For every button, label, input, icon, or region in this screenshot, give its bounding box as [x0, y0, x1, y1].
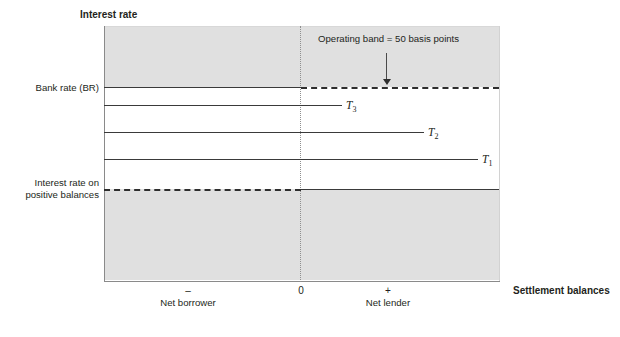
x-tick-label-net-borrower: Net borrower [148, 297, 228, 308]
down-arrow-icon-head [383, 79, 391, 85]
bank-rate-line-left-solid [104, 87, 301, 88]
x-tick-label-net-lender: Net lender [348, 297, 428, 308]
x-tick-sign-zero: 0 [281, 285, 321, 296]
figure-caption [155, 328, 610, 337]
plot-frame-top [104, 26, 500, 27]
x-tick-sign-positive: + [368, 285, 408, 296]
demand-curve-T2 [104, 132, 424, 133]
y-axis-line [104, 26, 105, 282]
y-label-positive-balances: Interest rate on positive balances [0, 177, 99, 201]
y-label-positive-balances-line2: positive balances [25, 189, 99, 200]
operating-band-annotation-text: Operating band = 50 basis points [318, 33, 459, 44]
zero-vertical-dotted-line [300, 26, 301, 282]
x-tick-sign-negative: – [168, 285, 208, 296]
x-axis-title: Settlement balances [513, 285, 610, 296]
y-label-positive-balances-line1: Interest rate on [34, 177, 99, 188]
demand-curve-T3 [104, 105, 342, 106]
series-label-T2: T2 [428, 126, 438, 141]
series-label-T3: T3 [346, 99, 356, 114]
plot-area [104, 26, 499, 280]
positive-balance-rate-line-right-solid [301, 189, 499, 190]
plot-frame-right [499, 26, 500, 282]
positive-balance-rate-line-left-dashed [104, 189, 301, 191]
down-arrow-icon-shaft [386, 53, 387, 80]
bank-rate-line-right-dashed [301, 87, 499, 89]
figure-container: T3 T2 T1 Operating band = 50 basis point… [0, 0, 620, 337]
x-axis-line [104, 281, 500, 282]
series-label-T1: T1 [482, 153, 492, 168]
y-axis-title: Interest rate [80, 9, 137, 20]
shaded-region-below-positive-rate [104, 189, 499, 280]
y-label-bank-rate: Bank rate (BR) [0, 82, 99, 94]
demand-curve-T1 [104, 159, 478, 160]
